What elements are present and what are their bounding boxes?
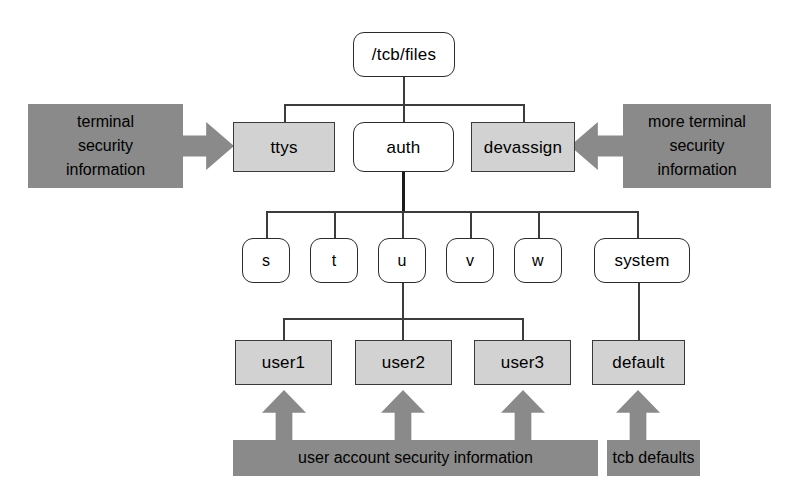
node-t[interactable]: t xyxy=(310,238,358,283)
connector-u-down xyxy=(402,211,404,238)
connector-s-down xyxy=(266,211,268,238)
callout-more-terminal-security-information: more terminal security information xyxy=(623,104,771,188)
node-default[interactable]: default xyxy=(592,340,685,385)
connector-user1-down xyxy=(283,318,285,340)
connector-system-down xyxy=(637,211,639,238)
node-label: ttys xyxy=(270,139,297,156)
node-auth[interactable]: auth xyxy=(353,122,454,172)
connector-u-stem xyxy=(402,283,404,319)
node-tcb-files[interactable]: /tcb/files xyxy=(353,32,455,77)
connector-auth-stem xyxy=(402,172,405,212)
node-label: user2 xyxy=(382,354,426,371)
callout-label: tcb defaults xyxy=(613,446,695,470)
node-label: auth xyxy=(387,139,421,156)
node-label: system xyxy=(614,252,669,269)
node-label: s xyxy=(262,253,270,269)
node-label: user1 xyxy=(262,354,306,371)
arrow-up-icon xyxy=(262,390,306,444)
connector-v-down xyxy=(470,211,472,238)
callout-line: information xyxy=(657,158,736,182)
node-label: devassign xyxy=(484,139,562,156)
callout-line: information xyxy=(66,158,145,182)
callout-terminal-security-information: terminal security information xyxy=(28,104,183,188)
node-label: v xyxy=(466,253,474,269)
node-devassign[interactable]: devassign xyxy=(471,122,575,172)
arrow-left-icon xyxy=(570,122,628,170)
connector-ttys-down xyxy=(284,104,286,122)
node-label: user3 xyxy=(501,354,545,371)
callout-label: user account security information xyxy=(298,446,533,470)
node-u[interactable]: u xyxy=(378,238,426,283)
arrow-up-icon xyxy=(381,390,425,444)
connector-root-down xyxy=(403,77,405,105)
callout-user-account-security-information: user account security information xyxy=(233,440,598,476)
arrow-up-icon xyxy=(616,390,660,444)
node-ttys[interactable]: ttys xyxy=(233,122,335,172)
node-label: default xyxy=(612,354,664,371)
connector-level3-bus xyxy=(266,211,638,213)
connector-system-default xyxy=(638,283,640,340)
node-s[interactable]: s xyxy=(242,238,290,283)
arrow-right-icon xyxy=(176,122,234,170)
connector-user2-down xyxy=(402,318,404,340)
node-system[interactable]: system xyxy=(594,238,690,283)
node-user2[interactable]: user2 xyxy=(355,340,452,385)
node-label: /tcb/files xyxy=(372,46,436,63)
node-label: u xyxy=(397,253,406,269)
node-user1[interactable]: user1 xyxy=(235,340,332,385)
node-label: t xyxy=(332,253,337,269)
diagram-canvas: /tcb/files ttys auth devassign s t u v w… xyxy=(0,0,794,489)
callout-line: security xyxy=(669,134,724,158)
connector-t-down xyxy=(334,211,336,238)
node-v[interactable]: v xyxy=(446,238,494,283)
connector-devassign-down xyxy=(523,104,525,122)
node-label: w xyxy=(532,253,544,269)
callout-line: terminal xyxy=(77,110,134,134)
connector-w-down xyxy=(538,211,540,238)
connector-user3-down xyxy=(522,318,524,340)
callout-line: more terminal xyxy=(648,110,746,134)
callout-line: security xyxy=(78,134,133,158)
node-w[interactable]: w xyxy=(514,238,562,283)
node-user3[interactable]: user3 xyxy=(474,340,571,385)
arrow-up-icon xyxy=(501,390,545,444)
callout-tcb-defaults: tcb defaults xyxy=(607,440,700,476)
connector-auth-down xyxy=(403,104,405,122)
